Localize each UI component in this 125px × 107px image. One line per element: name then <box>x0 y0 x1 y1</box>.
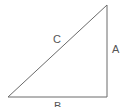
label-c: C <box>53 33 61 45</box>
label-b: B <box>54 100 61 107</box>
right-triangle-diagram: C A B <box>0 0 125 107</box>
label-a: A <box>112 43 120 55</box>
side-c-hypotenuse <box>8 5 107 97</box>
